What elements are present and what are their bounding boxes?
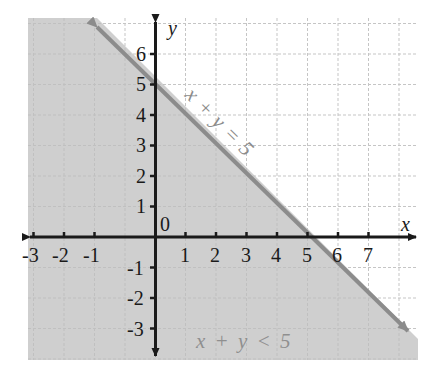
x-tick-label-6: 6 bbox=[332, 245, 342, 265]
x-tick-label-1: 1 bbox=[180, 245, 190, 265]
x-tick-label--3: -3 bbox=[22, 245, 39, 265]
plot-canvas bbox=[0, 0, 433, 374]
inequality-graph-figure: -3 -2 -1 1 2 3 4 5 6 7 6 5 4 3 2 1 -1 -2… bbox=[0, 0, 433, 374]
y-tick-label-3: 3 bbox=[136, 135, 146, 155]
y-tick-label-6: 6 bbox=[136, 44, 146, 64]
x-tick-label--2: -2 bbox=[52, 245, 69, 265]
x-tick-label-7: 7 bbox=[363, 245, 373, 265]
y-tick-label-1: 1 bbox=[136, 196, 146, 216]
x-tick-label-5: 5 bbox=[302, 245, 312, 265]
region-inequality-label: x + y < 5 bbox=[196, 331, 292, 352]
y-tick-label-2: 2 bbox=[136, 166, 146, 186]
y-tick-label-4: 4 bbox=[136, 105, 146, 125]
x-tick-label-3: 3 bbox=[241, 245, 251, 265]
x-tick-label-4: 4 bbox=[271, 245, 281, 265]
y-axis-label: y bbox=[168, 18, 177, 38]
x-tick-label--1: -1 bbox=[83, 245, 100, 265]
y-tick-label--2: -2 bbox=[127, 288, 144, 308]
x-axis-label: x bbox=[401, 214, 410, 234]
origin-label: 0 bbox=[160, 214, 170, 234]
y-tick-label--1: -1 bbox=[127, 258, 144, 278]
y-tick-label-5: 5 bbox=[136, 74, 146, 94]
y-tick-label--3: -3 bbox=[127, 319, 144, 339]
x-tick-label-2: 2 bbox=[210, 245, 220, 265]
